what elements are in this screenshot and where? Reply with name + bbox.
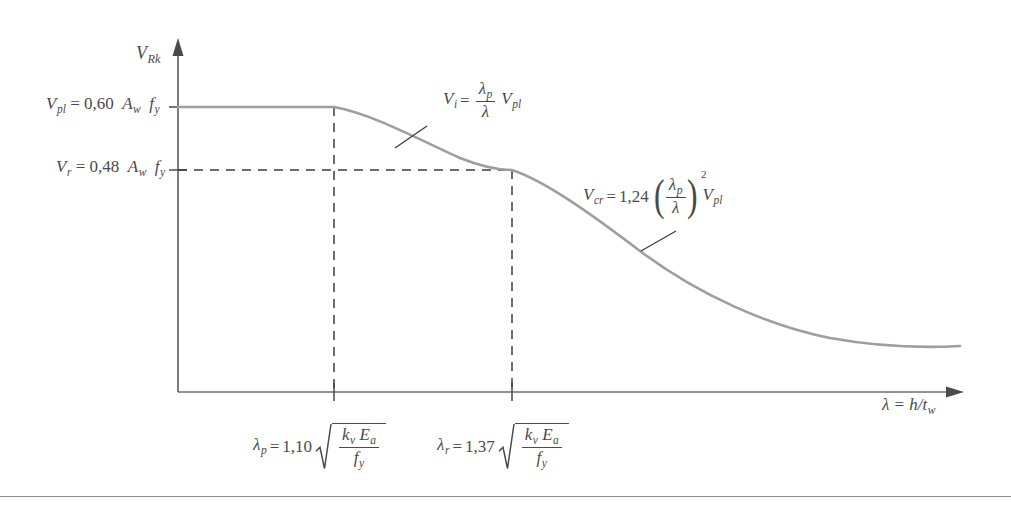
y-axis-title: VRk bbox=[136, 44, 160, 65]
x-axis-title: λ = h/tw bbox=[882, 396, 935, 416]
x-axis bbox=[178, 387, 964, 398]
exponent-two: 2 bbox=[701, 169, 707, 180]
label-v-r: Vr = 0,48 Aw fy bbox=[56, 158, 165, 178]
leader-line-v-cr bbox=[641, 231, 676, 251]
figure-page: VRk λ = h/tw Vpl = 0,60 Aw fy Vr = 0,48 … bbox=[0, 0, 1011, 511]
annotation-v-i: Vi = λp λ Vpl bbox=[443, 80, 521, 120]
annotation-v-cr: Vcr = 1,24 λp λ 2 Vpl bbox=[583, 176, 722, 216]
page-divider-rule bbox=[0, 496, 1011, 497]
label-lambda-r: λr = 1,37 kv Ea fy bbox=[437, 423, 569, 470]
label-lambda-p: λp = 1,10 kv Ea fy bbox=[253, 423, 386, 470]
label-v-pl: Vpl = 0,60 Aw fy bbox=[46, 95, 160, 115]
resistance-curve bbox=[178, 107, 960, 347]
radical-sign-icon bbox=[498, 423, 515, 470]
radical-sign-icon bbox=[315, 423, 332, 470]
y-axis bbox=[173, 38, 184, 392]
